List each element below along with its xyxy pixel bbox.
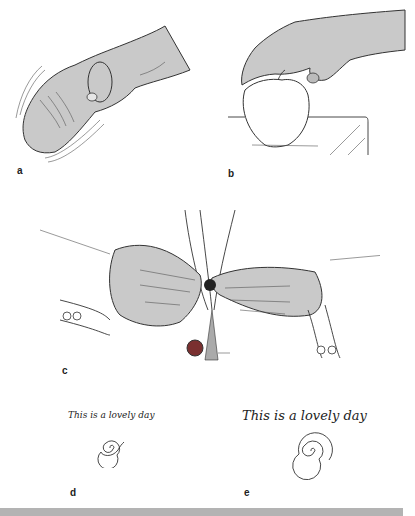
panel-e: This is a lovely day e [230,400,415,500]
panel-label-c: c [62,365,68,376]
tremor-hand-illustration [0,0,200,170]
spiral-small [90,428,150,468]
panel-b: b [200,0,415,180]
apple-hand-illustration [200,0,415,165]
handwriting-sample-large: This is a lovely day [242,408,367,423]
panel-c: c [40,210,380,390]
panel-a: a [0,0,200,180]
panel-label-a: a [17,165,23,176]
panel-label-b: b [228,168,234,179]
panel-d: This is a lovely day d [30,400,190,500]
panel-label-d: d [70,487,76,498]
buttoning-hands-illustration [40,210,380,385]
shirt-button [187,340,203,356]
spiral-large [283,425,343,480]
panel-label-e: e [244,487,250,498]
handwriting-sample-small: This is a lovely day [68,410,154,420]
bottom-bar [0,508,403,516]
